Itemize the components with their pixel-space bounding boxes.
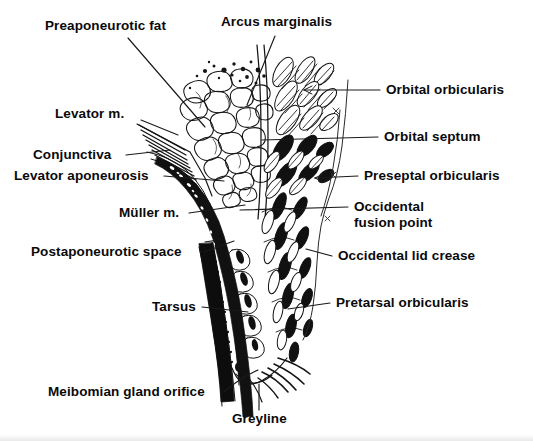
bottom-edge-band	[0, 435, 533, 441]
leader-preaponeurotic-fat	[128, 38, 205, 127]
preseptal-orbicularis-bundles	[261, 132, 336, 201]
label-levator-m: Levator m.	[55, 106, 124, 121]
label-preaponeurotic-fat: Preaponeurotic fat	[45, 18, 166, 33]
leader-lines	[126, 36, 380, 410]
label-greyline: Greyline	[232, 411, 287, 426]
label-tarsus: Tarsus	[152, 299, 196, 314]
leader-muller-m	[189, 205, 245, 213]
label-occidental-lid-crease: Occidental lid crease	[338, 248, 475, 263]
pretarsal-orbicularis-bundles	[260, 191, 315, 363]
label-arcus-marginalis: Arcus marginalis	[221, 14, 332, 29]
leader-occidental-lid-crease	[306, 249, 332, 256]
label-conjunctiva: Conjunctiva	[33, 147, 111, 162]
label-occidental-fusion-point-line1: Occidental	[354, 199, 424, 214]
label-orbital-septum: Orbital septum	[384, 129, 481, 144]
label-levator-aponeurosis: Levator aponeurosis	[14, 168, 149, 183]
leader-arcus-marginalis	[247, 36, 275, 105]
leader-orbital-septum	[262, 137, 378, 140]
leader-levator-aponeurosis	[164, 176, 224, 181]
label-preseptal-orbicularis: Preseptal orbicularis	[364, 168, 500, 183]
label-orbital-orbicularis: Orbital orbicularis	[386, 82, 504, 97]
orbital-orbicularis-bundles	[268, 54, 341, 139]
anatomical-figure: Preaponeurotic fat Arcus marginalis Leva…	[0, 0, 533, 441]
eyelid-cross-section-illustration	[0, 0, 533, 441]
label-muller-m: Müller m.	[119, 205, 179, 220]
illustration-ink	[126, 36, 380, 417]
label-postaponeurotic-space: Postaponeurotic space	[31, 244, 182, 259]
label-occidental-fusion-point-line2: fusion point	[354, 215, 432, 230]
label-pretarsal-orbicularis: Pretarsal orbicularis	[336, 295, 469, 310]
label-meibomian-gland-orifice: Meibomian gland orifice	[48, 384, 205, 399]
